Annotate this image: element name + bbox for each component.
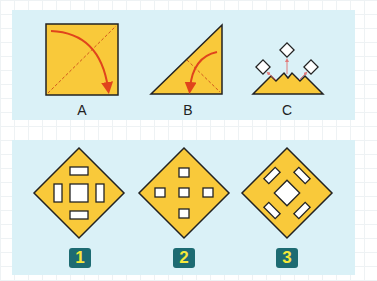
option-1-badge[interactable]: 1	[69, 248, 91, 268]
step-c-cut-triangle-icon	[253, 43, 323, 94]
option-2-badge[interactable]: 2	[173, 248, 195, 268]
option-3-diamond-icon[interactable]	[242, 148, 332, 238]
step-a-square-icon	[46, 24, 118, 95]
step-a-label: A	[77, 102, 86, 118]
option-2-diamond-icon[interactable]	[139, 148, 229, 238]
option-1-diamond-icon[interactable]	[34, 148, 124, 238]
option-3-badge[interactable]: 3	[276, 248, 298, 268]
step-b-label: B	[183, 102, 192, 118]
step-c-label: C	[282, 102, 292, 118]
step-b-triangle-icon	[151, 25, 222, 94]
diagram-canvas	[0, 0, 377, 281]
